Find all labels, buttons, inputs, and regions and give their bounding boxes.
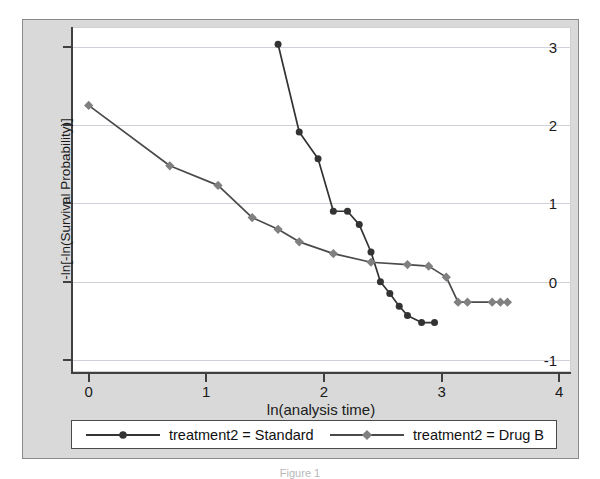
data-point-marker — [463, 298, 472, 307]
x-axis-line — [71, 372, 571, 374]
legend-entry[interactable]: treatment2 = Drug B — [330, 421, 544, 448]
data-point-marker — [275, 41, 282, 48]
data-point-marker — [330, 208, 337, 215]
x-tick-mark — [558, 374, 560, 382]
figure-panel: -10123 01234 -ln[-ln(Survival Probabilit… — [22, 19, 579, 459]
y-axis-label: -ln[-ln(Survival Probability)] — [58, 118, 73, 279]
data-point-marker — [273, 225, 282, 234]
legend-marker-sample — [330, 428, 404, 442]
data-point-marker — [377, 278, 384, 285]
data-point-marker — [296, 129, 303, 136]
data-point-marker — [329, 249, 338, 258]
diamond-marker-icon — [330, 428, 404, 442]
x-tick-label: 3 — [437, 383, 445, 400]
x-tick-mark — [441, 374, 443, 382]
y-tick-mark — [63, 281, 71, 283]
legend-box: treatment2 = Standardtreatment2 = Drug B — [71, 420, 557, 449]
data-point-marker — [386, 290, 393, 297]
data-point-marker — [418, 319, 425, 326]
series-line — [278, 44, 434, 322]
data-point-marker — [424, 262, 433, 271]
data-point-marker — [315, 155, 322, 162]
x-tick-label: 2 — [320, 383, 328, 400]
x-tick-mark — [323, 374, 325, 382]
legend-marker — [119, 431, 127, 439]
data-series-layer — [71, 27, 571, 372]
x-tick-mark — [205, 374, 207, 382]
data-point-marker — [366, 258, 375, 267]
x-axis-label: ln(analysis time) — [267, 401, 375, 418]
x-tick-label: 1 — [202, 383, 210, 400]
data-point-marker — [503, 298, 512, 307]
y-tick-mark — [63, 46, 71, 48]
figure-caption: Figure 1 — [280, 467, 320, 479]
x-tick-mark — [88, 374, 90, 382]
data-point-marker — [453, 298, 462, 307]
data-point-marker — [368, 249, 375, 256]
legend-marker — [362, 429, 372, 439]
data-point-marker — [396, 303, 403, 310]
legend-entry[interactable]: treatment2 = Standard — [86, 421, 314, 448]
circle-marker-icon — [86, 428, 160, 442]
data-point-marker — [488, 298, 497, 307]
legend-label: treatment2 = Standard — [169, 427, 314, 443]
data-point-marker — [403, 260, 412, 269]
x-tick-label: 4 — [555, 383, 563, 400]
data-point-marker — [295, 237, 304, 246]
x-tick-label: 0 — [84, 383, 92, 400]
y-tick-mark — [63, 359, 71, 361]
data-series — [275, 41, 438, 326]
data-point-marker — [442, 273, 451, 282]
data-point-marker — [344, 208, 351, 215]
data-point-marker — [356, 221, 363, 228]
data-point-marker — [431, 319, 438, 326]
data-point-marker — [404, 312, 411, 319]
legend-marker-sample — [86, 428, 160, 442]
plot-wrapper: -10123 01234 -ln[-ln(Survival Probabilit… — [71, 27, 571, 372]
legend-label: treatment2 = Drug B — [413, 427, 544, 443]
